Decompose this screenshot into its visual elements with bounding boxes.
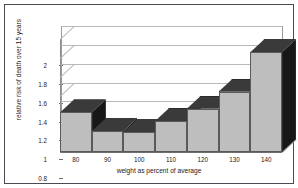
plot-area — [47, 26, 283, 153]
bar — [123, 26, 155, 153]
x-axis-tick-label: 90 — [104, 156, 111, 163]
y-axis-tick-label: 0.8 — [21, 175, 47, 182]
bar-front-face — [123, 132, 155, 152]
bar — [187, 26, 219, 153]
y-axis-tick-mark — [59, 178, 63, 179]
x-axis-tick-label: 110 — [166, 156, 176, 163]
bar — [250, 26, 282, 153]
bar-front-face — [187, 109, 219, 152]
bar — [155, 26, 187, 153]
bar-front-face — [155, 121, 187, 152]
bar — [219, 26, 251, 153]
chart-figure: relative risk of death over 15 years wei… — [0, 0, 298, 188]
y-axis-tick-label: 1 — [21, 156, 47, 163]
bar — [60, 26, 92, 153]
bar — [92, 26, 124, 153]
x-axis-tick-label: 140 — [261, 156, 272, 163]
y-axis-tick-label: 1.2 — [21, 137, 47, 144]
bar-front-face — [219, 92, 251, 152]
x-axis-tick-label: 100 — [134, 156, 145, 163]
y-axis-tick-label: 1.8 — [21, 80, 47, 87]
x-axis-title: weight as percent of average — [44, 167, 274, 174]
y-axis-tick-label: 1.6 — [21, 99, 47, 106]
bar-front-face — [250, 52, 282, 152]
bar-front-face — [92, 131, 124, 152]
x-axis-tick-label: 120 — [197, 156, 208, 163]
y-axis-tick-label: 1.4 — [21, 118, 47, 125]
y-axis-tick-label: 2 — [21, 62, 47, 69]
x-axis-tick-label: 130 — [229, 156, 240, 163]
x-axis-tick-labels: 8090100110120130140 — [47, 156, 287, 168]
bar-side-face — [282, 39, 296, 152]
x-axis-tick-label: 80 — [72, 156, 79, 163]
y-axis-tick-labels: 0.811.21.41.61.82 — [15, 26, 47, 166]
bar-front-face — [60, 112, 92, 152]
